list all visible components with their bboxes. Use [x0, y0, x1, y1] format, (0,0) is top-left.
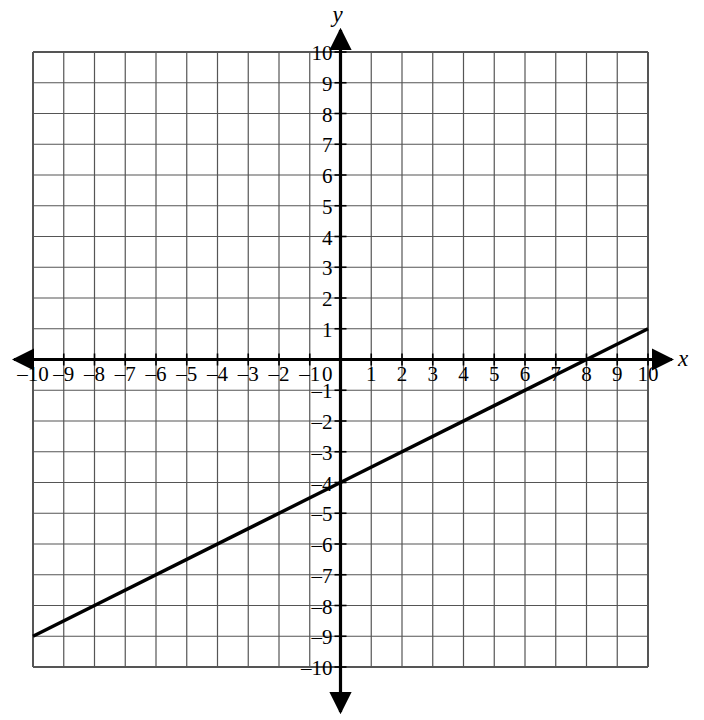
y-tick-label: 8: [322, 103, 333, 127]
x-tick-label: –9: [52, 362, 74, 386]
x-tick-label: 4: [458, 362, 469, 386]
x-tick-label: 10: [638, 362, 659, 386]
x-tick-label: –6: [145, 362, 167, 386]
x-tick-label: –2: [268, 362, 290, 386]
y-tick-label: 2: [322, 287, 333, 311]
x-tick-label: –3: [237, 362, 259, 386]
y-tick-label: –3: [311, 441, 333, 465]
origin-label-group: 0: [322, 362, 333, 386]
y-tick-label: 3: [322, 256, 333, 280]
coordinate-graph: –10–9–8–7–6–5–4–3–2–112345678910 1098765…: [0, 0, 704, 720]
x-tick-label: –8: [83, 362, 105, 386]
y-tick-label: –10: [300, 656, 333, 680]
y-tick-label: –6: [311, 533, 333, 557]
y-tick-label: 1: [322, 318, 333, 342]
y-tick-label: –8: [311, 595, 333, 619]
y-tick-label: –9: [311, 625, 333, 649]
x-tick-label: 6: [520, 362, 531, 386]
origin-label: 0: [322, 362, 333, 386]
x-tick-label: –7: [114, 362, 136, 386]
y-tick-label: –5: [311, 502, 333, 526]
y-tick-label: 9: [322, 72, 333, 96]
graph-canvas: –10–9–8–7–6–5–4–3–2–112345678910 1098765…: [0, 0, 704, 720]
y-tick-label: 10: [312, 41, 333, 65]
x-tick-label: –5: [175, 362, 197, 386]
y-tick-label: 5: [322, 195, 333, 219]
y-tick-label: –7: [311, 564, 333, 588]
x-tick-label: 9: [612, 362, 623, 386]
x-tick-label: 1: [366, 362, 377, 386]
y-axis-label: y: [330, 2, 343, 27]
y-tick-label: 7: [322, 133, 333, 157]
x-tick-label: 8: [581, 362, 592, 386]
x-tick-label: 2: [397, 362, 408, 386]
x-tick-label: –10: [16, 362, 49, 386]
x-tick-label: –4: [206, 362, 229, 386]
x-tick-label: 3: [428, 362, 439, 386]
y-tick-label: 4: [322, 226, 333, 250]
y-tick-label: –2: [311, 410, 333, 434]
x-axis-label: x: [677, 346, 689, 371]
y-tick-label: 6: [322, 164, 333, 188]
x-tick-label: 5: [489, 362, 500, 386]
